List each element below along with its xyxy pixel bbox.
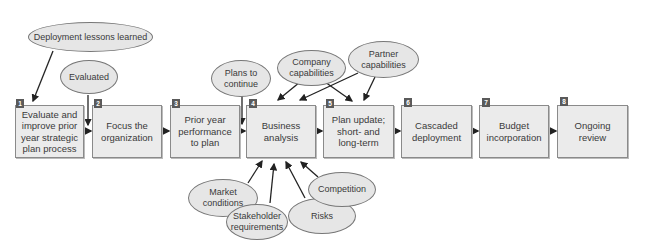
input-plans-to-continue: Plans to continue <box>211 60 271 97</box>
input-stakeholder-requirements: Stakeholder requirements <box>226 204 288 240</box>
step-number-badge: 4 <box>249 99 257 108</box>
step-box-3: Prior year performance to plan <box>170 105 240 158</box>
input-evaluated: Evaluated <box>60 60 118 94</box>
input-competition: Competition <box>308 172 376 207</box>
step-box-1: Evaluate and improve prior year strategi… <box>15 105 84 158</box>
step-box-8: Ongoing review <box>557 105 628 158</box>
step-label: Plan update; short- and long-term <box>329 114 389 149</box>
step-label: Budget incorporation <box>483 120 545 143</box>
step-label: Ongoing review <box>568 120 618 143</box>
step-label: Cascaded deployment <box>407 120 467 143</box>
step-box-4: Business analysis <box>246 105 316 158</box>
step-number-badge: 5 <box>326 99 334 108</box>
step-label: Business analysis <box>256 120 306 143</box>
step-label: Focus the organization <box>100 120 155 143</box>
step-number-badge: 3 <box>172 99 180 108</box>
step-number-badge: 6 <box>404 98 412 107</box>
input-partner-capabilities: Partner capabilities <box>348 41 419 78</box>
step-number-badge: 8 <box>560 97 568 106</box>
step-label: Evaluate and improve prior year strategi… <box>19 109 80 155</box>
step-number-badge: 2 <box>94 99 102 108</box>
step-box-5: Plan update; short- and long-term <box>323 105 394 158</box>
input-company-capabilities: Company capabilities <box>277 50 346 86</box>
step-box-7: Budget incorporation <box>479 105 549 158</box>
input-deployment-lessons: Deployment lessons learned <box>28 22 153 52</box>
step-label: Prior year performance to plan <box>176 114 234 149</box>
step-box-6: Cascaded deployment <box>401 105 472 158</box>
step-number-badge: 1 <box>16 99 24 108</box>
step-box-2: Focus the organization <box>92 105 162 158</box>
step-number-badge: 7 <box>482 98 490 107</box>
